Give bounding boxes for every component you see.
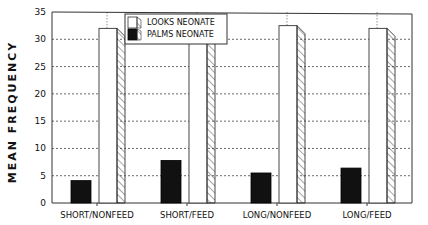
x-category-label: SHORT/FEED [160,210,214,220]
y-tick-label: 20 [35,89,47,99]
bar-palms-neonate [341,168,361,203]
y-tick-label: 30 [35,34,47,44]
bar-palms-neonate [251,173,271,203]
top-frame-line [52,12,412,14]
y-axis-label: MEAN FREQUENCY [6,41,19,184]
bar-palms-neonate [71,181,91,203]
x-category-label: LONG/NONFEED [243,210,312,220]
legend-swatch-palms-side [137,29,141,40]
legend-swatch-looks [128,17,137,28]
bar-looks-neonate [99,28,117,203]
bar-looks-neonate-side [387,28,395,203]
bars [71,26,395,203]
legend-label-palms: PALMS NEONATE [147,30,214,39]
y-tick-label: 10 [35,143,47,153]
legend: LOOKS NEONATEPALMS NEONATE [125,14,227,44]
x-category-label: LONG/FEED [342,210,392,220]
bar-chart: 05101520253035SHORT/NONFEEDSHORT/FEEDLON… [0,0,428,225]
y-tick-label: 25 [35,62,46,72]
y-tick-label: 0 [40,198,46,208]
legend-swatch-palms [128,29,137,40]
bar-looks-neonate [189,28,207,203]
y-tick-label: 5 [40,171,46,181]
bar-looks-neonate [279,26,297,203]
legend-label-looks: LOOKS NEONATE [147,18,215,27]
bar-looks-neonate-side [117,28,125,203]
bar-looks-neonate-side [207,28,215,203]
y-tick-label: 35 [35,7,46,17]
y-tick-label: 15 [35,116,46,126]
x-category-label: SHORT/NONFEED [60,210,134,220]
bar-looks-neonate-side [297,26,305,203]
bar-looks-neonate [369,28,387,203]
bar-palms-neonate [161,160,181,203]
